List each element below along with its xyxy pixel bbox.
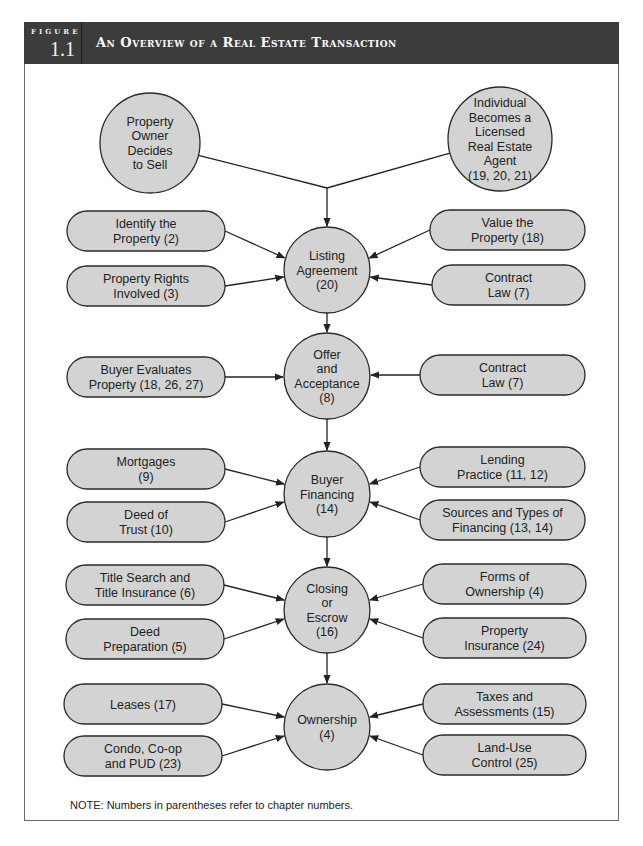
nodes-layer: PropertyOwnerDecidesto SellIndividualBec… <box>64 87 586 776</box>
input-arrow <box>225 231 285 258</box>
node-label: Escrow <box>307 611 349 625</box>
node-label: Deed of <box>124 508 168 522</box>
node-buyer-evaluates: Buyer EvaluatesProperty (18, 26, 27) <box>67 357 225 397</box>
node-offer-acceptance: OfferandAcceptance(8) <box>284 333 370 419</box>
node-ownership: Ownership(4) <box>284 684 370 770</box>
node-label: (4) <box>319 728 334 742</box>
node-forms-ownership: Forms ofOwnership (4) <box>423 564 586 604</box>
node-label: Financing (13, 14) <box>452 521 553 535</box>
node-label: Condo, Co-op <box>104 742 182 756</box>
node-label: Buyer <box>311 473 344 487</box>
node-label: to Sell <box>133 158 168 172</box>
node-label: Title Insurance (6) <box>95 586 195 600</box>
node-label: (14) <box>316 502 338 516</box>
input-arrow <box>222 736 284 756</box>
input-arrow <box>370 277 432 285</box>
node-label: Ownership (4) <box>465 585 544 599</box>
node-label: Decides <box>127 144 172 158</box>
node-value-property: Value theProperty (18) <box>430 210 585 250</box>
node-identify-property: Identify theProperty (2) <box>67 211 225 251</box>
node-label: Trust (10) <box>119 523 173 537</box>
input-arrow <box>370 467 420 484</box>
node-label: Financing <box>300 488 354 502</box>
node-label: and <box>317 362 338 376</box>
node-label: Insurance (24) <box>464 639 545 653</box>
node-land-use-control: Land-UseControl (25) <box>423 735 586 775</box>
node-label: Acceptance <box>294 377 359 391</box>
node-label: Agent <box>484 154 517 168</box>
node-label: (9) <box>138 470 153 484</box>
input-arrow <box>224 585 284 600</box>
node-leases: Leases (17) <box>64 684 222 724</box>
node-label: Involved (3) <box>113 287 178 301</box>
node-deed-of-trust: Deed ofTrust (10) <box>67 502 225 542</box>
node-title-search: Title Search andTitle Insurance (6) <box>66 565 224 605</box>
node-label: Buyer Evaluates <box>100 363 191 377</box>
node-contract-law-2: ContractLaw (7) <box>420 355 585 395</box>
node-owner-decides: PropertyOwnerDecidesto Sell <box>100 93 200 193</box>
node-label: Law (7) <box>482 376 524 390</box>
node-label: Title Search and <box>100 571 191 585</box>
node-label: Preparation (5) <box>103 640 186 654</box>
node-label: Land-Use <box>477 741 531 755</box>
node-label: Real Estate <box>468 140 533 154</box>
node-label: (19, 20, 21) <box>468 169 532 183</box>
node-label: Contract <box>479 361 527 375</box>
node-label: Assessments (15) <box>454 705 554 719</box>
connector-line <box>198 155 327 188</box>
node-label: Leases (17) <box>110 698 176 712</box>
input-arrow <box>225 469 284 484</box>
node-label: Deed <box>130 625 160 639</box>
node-label: and PUD (23) <box>105 757 181 771</box>
node-label: Identify the <box>115 217 176 231</box>
node-label: Value the <box>482 216 534 230</box>
flow-diagram: PropertyOwnerDecidesto SellIndividualBec… <box>0 0 643 846</box>
node-label: Property (2) <box>113 232 179 246</box>
node-listing-agreement: ListingAgreement(20) <box>284 227 370 313</box>
node-label: Offer <box>313 348 341 362</box>
node-label: Licensed <box>475 125 525 139</box>
node-label: or <box>321 596 332 610</box>
node-label: Owner <box>132 129 169 143</box>
node-label: Property Rights <box>103 272 189 286</box>
input-arrow <box>370 619 423 638</box>
node-contract-law-1: ContractLaw (7) <box>432 265 585 305</box>
input-arrow <box>225 277 284 286</box>
node-buyer-financing: BuyerFinancing(14) <box>284 451 370 537</box>
node-label: Individual <box>474 96 527 110</box>
node-deed-preparation: DeedPreparation (5) <box>66 619 224 659</box>
node-label: Becomes a <box>469 111 532 125</box>
node-label: Property (18) <box>471 231 544 245</box>
input-arrow <box>222 704 284 717</box>
node-condo-coop: Condo, Co-opand PUD (23) <box>64 736 222 776</box>
input-arrow <box>225 502 284 522</box>
node-label: (16) <box>316 625 338 639</box>
node-label: Ownership <box>297 713 357 727</box>
node-label: Practice (11, 12) <box>457 468 548 482</box>
node-closing-escrow: ClosingorEscrow(16) <box>284 567 370 653</box>
node-label: Agreement <box>296 264 358 278</box>
node-label: Lending <box>480 453 525 467</box>
node-mortgages: Mortgages(9) <box>67 449 225 489</box>
input-arrow <box>369 230 430 258</box>
node-sources-financing: Sources and Types ofFinancing (13, 14) <box>420 500 585 540</box>
node-label: (20) <box>316 278 338 292</box>
connector-line <box>327 153 450 188</box>
node-label: Property <box>126 115 174 129</box>
input-arrow <box>370 704 423 717</box>
node-label: Law (7) <box>488 286 530 300</box>
node-label: Closing <box>306 582 348 596</box>
node-label: Forms of <box>480 570 530 584</box>
node-label: Taxes and <box>476 690 533 704</box>
input-arrow <box>370 584 423 600</box>
node-property-rights: Property RightsInvolved (3) <box>67 266 225 306</box>
node-label: Control (25) <box>472 756 538 770</box>
input-arrow <box>370 736 423 755</box>
node-property-insurance: PropertyInsurance (24) <box>423 618 586 658</box>
node-label: Mortgages <box>116 455 175 469</box>
node-taxes-assessments: Taxes andAssessments (15) <box>423 684 586 724</box>
node-label: Property (18, 26, 27) <box>89 378 204 392</box>
node-label: Sources and Types of <box>442 506 563 520</box>
node-licensed-agent: IndividualBecomes aLicensedReal EstateAg… <box>448 87 552 191</box>
input-arrow <box>370 502 420 520</box>
